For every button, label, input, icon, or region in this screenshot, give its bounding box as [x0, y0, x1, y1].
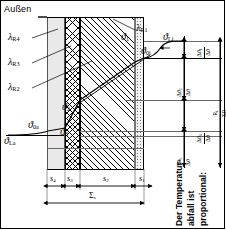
dim-sum-s-label: Σs — [89, 191, 96, 200]
dim-s1-sub: 1 — [142, 178, 144, 183]
dim-sum-s-sub: s — [94, 195, 96, 200]
lambda-R3-sub: R3 — [12, 60, 19, 67]
ratio-Ri-1-den: Δϑ — [205, 48, 211, 57]
theta-1-sub: 1 — [126, 35, 129, 42]
ratio-R-sum-num-sub: i — [215, 111, 219, 112]
theta-La-sub: La — [9, 139, 16, 146]
dim-s4-label: s4 — [50, 174, 56, 183]
theta-0a-sub: 0a — [33, 123, 39, 130]
ratio-Ri-4-fraction: Δϑ4 Δϑ — [196, 133, 211, 144]
ratio-Ri-1-label: Δϑ1 Δϑ — [196, 47, 211, 58]
theta-Li-sub: Li — [168, 35, 174, 42]
dim-s3-label: s3 — [67, 174, 73, 183]
ratio-Ri-4-den: Δϑ — [205, 134, 211, 143]
theta-2-sub: 2 — [67, 105, 70, 112]
ratio-Ri-2-den: Δϑ — [185, 88, 191, 97]
thermal-wall-diagram: Außen — [0, 0, 226, 230]
theta-La-label: ϑLa — [4, 136, 15, 147]
theta-3-sub: 3 — [65, 130, 68, 137]
theta-3-label: ϑ3 — [60, 127, 68, 138]
ratio-Ri-4-label: Δϑ4 Δϑ — [196, 133, 211, 144]
lambda-R1-sub: R1 — [140, 26, 147, 33]
dim-s2-sub: 2 — [106, 178, 108, 183]
ratio-R-sum-num: R — [212, 112, 218, 116]
ratio-R-sum-den: ΣR — [221, 109, 226, 119]
lambda-R4-sub: R4 — [12, 35, 19, 42]
theta-0i-label: ϑ0i — [141, 46, 151, 57]
ratio-Ri-4-num-sub: 4 — [199, 134, 203, 136]
ratio-Ri-1-fraction: Δϑ1 Δϑ — [196, 47, 211, 58]
ratio-R-sum-fraction: Ri ΣR — [212, 109, 226, 119]
dim-s4-sub: 4 — [53, 178, 55, 183]
ratio-Ri-2-fraction: Δϑ2 Δϑ — [176, 87, 191, 98]
caption-line-2: abfall ist — [186, 191, 196, 226]
theta-Li-label: ϑLi — [163, 32, 173, 43]
ratio-Ri-2-num-sub: 2 — [179, 88, 183, 90]
dim-s2-label: s2 — [103, 174, 109, 183]
dim-s1-label: s1 — [139, 174, 145, 183]
theta-1-label: ϑ1 — [121, 32, 129, 43]
lambda-R3-label: λR3 — [8, 57, 20, 68]
lambda-R2-label: λR2 — [8, 82, 20, 93]
ratio-Ri-1-num: Δϑ — [196, 50, 202, 57]
lambda-R2-sub: R2 — [12, 85, 19, 92]
lambda-R1-label: λR1 — [136, 23, 148, 34]
theta-0i-sub: 0i — [146, 49, 151, 56]
caption-line-3: proportional: — [198, 172, 208, 226]
theta-0a-label: ϑ0a — [28, 120, 39, 131]
dim-s3-sub: 3 — [70, 178, 72, 183]
theta-2-label: ϑ2 — [62, 102, 70, 113]
caption-line-1: Der Temperatur- — [174, 159, 184, 226]
ratio-Ri-3-den: Δϑ — [185, 158, 191, 167]
lambda-R4-label: λR4 — [8, 32, 20, 43]
ratio-Ri-2-label: Δϑ2 Δϑ — [176, 87, 191, 98]
ratio-Ri-2-num: Δϑ — [176, 90, 182, 97]
ratio-Ri-1-num-sub: 1 — [199, 48, 203, 50]
ratio-R-sum-label: Ri ΣR — [212, 109, 226, 119]
ratio-Ri-4-num: Δϑ — [196, 136, 202, 143]
